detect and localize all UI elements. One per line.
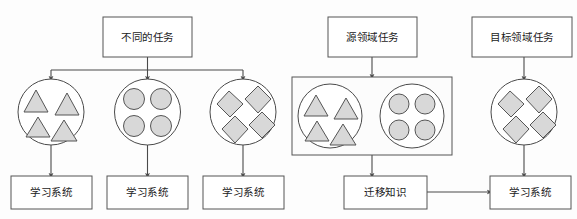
circle-shape [151, 116, 172, 137]
circle-shape [124, 89, 145, 110]
source-domain-task-box[interactable]: 源领域任务 [328, 17, 417, 57]
target-domain-task-label: 目标领域任务 [490, 31, 554, 43]
circle-shape [151, 89, 172, 110]
source-domain-group-container[interactable] [292, 77, 452, 155]
target-domain-task-box[interactable]: 目标领域任务 [472, 17, 572, 57]
circle-shape [415, 120, 435, 140]
learning-system-label-2: 学习系统 [126, 186, 169, 198]
different-tasks-label: 不同的任务 [121, 31, 174, 43]
learning-system-label-target: 学习系统 [509, 186, 552, 198]
circle-shape [389, 94, 409, 114]
target-group-diamonds[interactable] [491, 79, 557, 145]
transfer-learning-diagram: 不同的任务 学习系统 [0, 0, 577, 219]
task-group-circles[interactable] [115, 79, 181, 145]
transfer-knowledge-label: 迁移知识 [364, 186, 406, 198]
circle-shape [389, 120, 409, 140]
transfer-knowledge-box[interactable]: 迁移知识 [344, 176, 427, 209]
different-tasks-box[interactable]: 不同的任务 [103, 17, 192, 57]
diagram-canvas: 不同的任务 学习系统 [0, 0, 577, 219]
learning-system-box-target[interactable]: 学习系统 [490, 176, 571, 209]
learning-system-box-3[interactable]: 学习系统 [203, 176, 284, 209]
learning-system-box-1[interactable]: 学习系统 [11, 176, 92, 209]
source-group-circles[interactable] [380, 84, 444, 148]
task-group-diamonds[interactable] [210, 79, 276, 145]
circle-shape [415, 94, 435, 114]
task-group-triangles[interactable] [18, 79, 84, 145]
learning-system-label-1: 学习系统 [30, 186, 73, 198]
learning-system-box-2[interactable]: 学习系统 [107, 176, 188, 209]
learning-system-label-3: 学习系统 [222, 186, 265, 198]
circle-shape [124, 116, 145, 137]
source-domain-task-label: 源领域任务 [346, 31, 399, 43]
source-group-circles-outline [380, 84, 444, 148]
source-group-triangles[interactable] [298, 84, 362, 148]
task-group-circles-outline [115, 79, 181, 145]
